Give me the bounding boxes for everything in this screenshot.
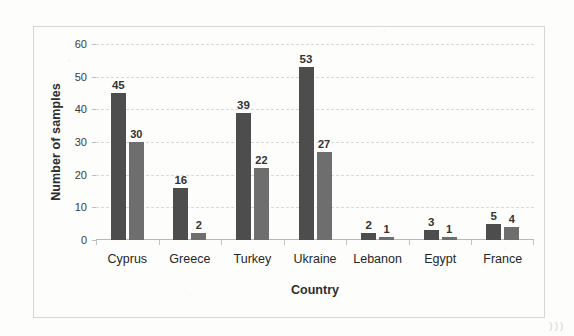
bar-container: 22 (254, 44, 269, 240)
plot-area: 0102030405060 453016239225327213154 (96, 44, 534, 240)
x-tick-label-france: France (471, 252, 534, 266)
bar[interactable] (442, 237, 457, 240)
y-tick-label: 30 (75, 136, 87, 148)
category-separator-tick (284, 240, 285, 245)
bar-group: 162 (159, 44, 222, 240)
bar[interactable] (191, 233, 206, 240)
y-tick-label: 20 (75, 169, 87, 181)
bar-container: 45 (111, 44, 126, 240)
x-tick-label-cyprus: Cyprus (96, 252, 159, 266)
bar-value-label: 30 (130, 128, 142, 140)
y-axis-title-text: Number of samples (49, 83, 63, 201)
bar-container: 39 (236, 44, 251, 240)
bar[interactable] (299, 67, 314, 240)
bar[interactable] (317, 152, 332, 240)
y-tick-label: 60 (75, 38, 87, 50)
category-separator-tick (409, 240, 410, 245)
x-tick-label-turkey: Turkey (221, 252, 284, 266)
bar-container: 27 (317, 44, 332, 240)
bar-container: 4 (504, 44, 519, 240)
bar-value-label: 39 (237, 99, 250, 111)
y-axis-title: Number of samples (46, 44, 66, 240)
bar-container: 3 (424, 44, 439, 240)
bar[interactable] (486, 224, 501, 240)
bar-value-label: 22 (255, 154, 267, 166)
y-tick-label: 50 (75, 71, 87, 83)
category-separator-tick (533, 240, 534, 245)
x-tick-label-greece: Greece (159, 252, 222, 266)
bar[interactable] (361, 233, 376, 240)
bar[interactable] (379, 237, 394, 240)
bar-container: 53 (299, 44, 314, 240)
bar-value-label: 4 (509, 213, 515, 225)
bar-container: 1 (379, 44, 394, 240)
bar-value-label: 2 (365, 219, 371, 231)
y-tick-label: 0 (81, 234, 87, 246)
bar-value-label: 2 (196, 219, 202, 231)
y-tick-label: 10 (75, 201, 87, 213)
category-separator-tick (96, 240, 97, 245)
bar-container: 16 (173, 44, 188, 240)
bar[interactable] (424, 230, 439, 240)
bar-value-label: 45 (112, 79, 125, 91)
bar-group: 54 (471, 44, 534, 240)
bar-group: 3922 (221, 44, 284, 240)
bar-container: 5 (486, 44, 501, 240)
category-separator-tick (471, 240, 472, 245)
bar-value-label: 16 (174, 174, 187, 186)
scan-artifact: ))) (548, 322, 564, 332)
bar-value-label: 5 (491, 210, 497, 222)
x-tick-label-lebanon: Lebanon (346, 252, 409, 266)
bar-groups: 453016239225327213154 (96, 44, 534, 240)
bar-container: 2 (361, 44, 376, 240)
bar[interactable] (236, 113, 251, 240)
bar[interactable] (111, 93, 126, 240)
bar-container: 2 (191, 44, 206, 240)
bar[interactable] (129, 142, 144, 240)
y-tick-label: 40 (75, 103, 87, 115)
bar-value-label: 1 (446, 223, 452, 235)
category-separator-tick (346, 240, 347, 245)
bar-group: 4530 (96, 44, 159, 240)
x-tick-label-ukraine: Ukraine (284, 252, 347, 266)
bar-group: 31 (409, 44, 472, 240)
bar-value-label: 27 (318, 138, 330, 150)
bar-group: 21 (346, 44, 409, 240)
category-separator-tick (221, 240, 222, 245)
x-axis-tick-labels: CyprusGreeceTurkeyUkraineLebanonEgyptFra… (96, 252, 534, 266)
bar[interactable] (504, 227, 519, 240)
x-axis-title: Country (96, 283, 534, 297)
x-tick-label-egypt: Egypt (409, 252, 472, 266)
bar-value-label: 53 (300, 53, 313, 65)
bar-container: 30 (129, 44, 144, 240)
bar-container: 1 (442, 44, 457, 240)
bar-group: 5327 (284, 44, 347, 240)
bar[interactable] (173, 188, 188, 240)
bar[interactable] (254, 168, 269, 240)
category-separator-tick (159, 240, 160, 245)
bar-value-label: 3 (428, 216, 434, 228)
bar-value-label: 1 (384, 223, 390, 235)
